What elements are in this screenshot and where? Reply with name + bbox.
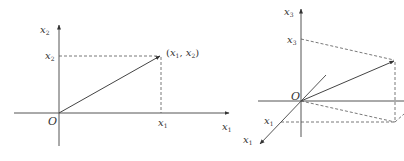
dashed-top-edge: [301, 39, 394, 60]
diagonal-axis-label: x1: [243, 134, 252, 146]
right-diagram: x3 x3 O x1 x1: [243, 6, 404, 146]
origin-label: O: [48, 115, 57, 128]
dashed-floor-diagonal: [301, 101, 395, 122]
y-axis-label: x2: [40, 24, 50, 36]
left-diagram: x2 x2 (x1, x2) O x1 x1: [14, 24, 231, 146]
point-label: (x1, x2): [166, 47, 199, 59]
diagonal-axis-line: [260, 75, 326, 144]
diagonal-tick-label: x1: [264, 115, 273, 127]
vertical-tick-label: x3: [287, 34, 297, 46]
y-tick-label: x2: [45, 50, 55, 62]
vertical-axis-label: x3: [284, 6, 294, 18]
origin-label-3d: O: [291, 90, 300, 103]
vector-diagrams: x2 x2 (x1, x2) O x1 x1 x3 x3 O x1 x1: [0, 0, 404, 161]
x-axis-label: x1: [222, 121, 231, 133]
vector-arrow-3d: [301, 61, 394, 101]
dashed-floor-corner: [395, 114, 404, 122]
x-tick-label: x1: [158, 117, 167, 129]
vector-arrow: [59, 56, 160, 113]
